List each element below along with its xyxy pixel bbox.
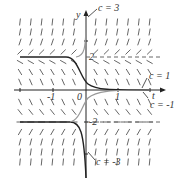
direction-field-plot	[0, 0, 196, 181]
y-tick-label-neg2: -2	[89, 117, 97, 127]
t-axis-arrow	[160, 88, 166, 93]
y-tick-label-2: 2	[89, 52, 94, 62]
curve-label-c-1: c = -1	[150, 100, 175, 110]
curve-c1	[20, 57, 150, 90]
origin-label: 0	[77, 92, 82, 102]
x-tick-label-1: 1	[115, 92, 120, 102]
curve-label-c3: c = 3	[98, 3, 119, 13]
curve-c-1	[70, 90, 150, 122]
y-axis-label: y	[76, 10, 80, 20]
y-axis-arrow	[84, 10, 89, 16]
x-tick-label-neg1: -1	[47, 92, 55, 102]
curve-label-c1: c = 1	[149, 71, 170, 81]
curve-label-c-3: c = -3	[96, 157, 121, 167]
curve-c3	[76, 20, 86, 57]
